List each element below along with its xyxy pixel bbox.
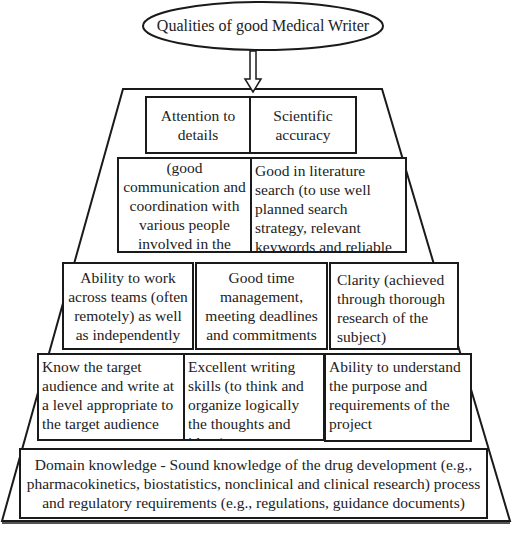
box-label: Ability to work across teams (often remo… [67, 268, 189, 344]
quality-clarity: Clarity (achieved through thorough resea… [329, 262, 459, 350]
quality-interpersonal-skills: Interpersonal skills (good communication… [117, 157, 252, 253]
box-label: Scientific accuracy [254, 106, 352, 144]
quality-scientific-accuracy: Scientific accuracy [249, 96, 357, 154]
box-label: Domain knowledge - Sound knowledge of th… [25, 455, 482, 512]
diagram-title: Qualities of good Medical Writer [143, 4, 383, 48]
box-label: Excellent writing skills (to think and o… [188, 357, 320, 441]
quality-domain-knowledge: Domain knowledge - Sound knowledge of th… [19, 448, 488, 519]
box-label: Good time management, meeting deadlines … [200, 268, 323, 344]
quality-understand-purpose: Ability to understand the purpose and re… [324, 353, 472, 442]
down-arrow-icon [245, 51, 261, 92]
box-label: Interpersonal skills (good communication… [122, 157, 247, 253]
quality-literature-search: Good in literature search (to use well p… [250, 157, 407, 253]
quality-know-audience: Know the target audience and write at a … [37, 353, 185, 441]
quality-teamwork: Ability to work across teams (often remo… [62, 262, 194, 350]
box-label: Clarity (achieved through thorough resea… [337, 270, 454, 346]
quality-writing-skills: Excellent writing skills (to think and o… [183, 353, 325, 441]
box-label: Know the target audience and write at a … [42, 357, 180, 433]
box-label: Attention to details [150, 106, 246, 144]
quality-time-management: Good time management, meeting deadlines … [195, 262, 328, 350]
box-label: Ability to understand the purpose and re… [329, 357, 467, 433]
box-label: Good in literature search (to use well p… [255, 161, 402, 253]
quality-attention-to-details: Attention to details [145, 96, 251, 154]
